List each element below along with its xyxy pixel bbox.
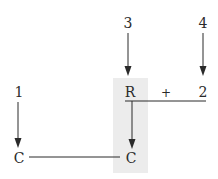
diagram-lines xyxy=(0,0,218,179)
diagram-canvas: 3 4 1 R + 2 C C xyxy=(0,0,218,179)
label-c-right: C xyxy=(126,151,137,165)
arrow-r-to-c xyxy=(129,101,136,149)
arrow-3-to-r xyxy=(125,33,132,76)
arrow-1-to-c xyxy=(15,102,22,148)
label-2: 2 xyxy=(199,85,208,99)
label-c-left: C xyxy=(14,151,25,165)
label-1: 1 xyxy=(15,85,24,99)
label-4: 4 xyxy=(199,16,208,30)
label-3: 3 xyxy=(124,16,133,30)
label-plus: + xyxy=(161,87,171,99)
label-r: R xyxy=(125,85,136,99)
arrow-4-to-2 xyxy=(200,33,207,76)
